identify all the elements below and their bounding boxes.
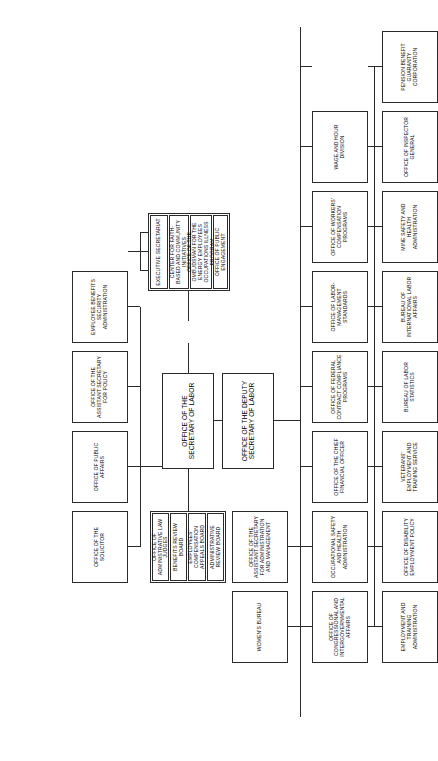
node-veterans-employment-and-training-service[interactable]: VETERANS' EMPLOYMENT AND TRAINING SERVIC… [382,431,438,503]
node-employment-and-training-administration[interactable]: EMPLOYMENT AND TRAINING ADMINISTRATION [382,591,438,663]
stub-mid-2 [300,306,312,307]
bracket-row-lower-right [374,67,375,147]
node-office-of-public-engagement-label: OFFICE OF PUBLIC ENGAGEMENT [215,218,226,286]
node-office-of-public-engagement[interactable]: OFFICE OF PUBLIC ENGAGEMENT [213,215,228,289]
node-womens-bureau[interactable]: WOMEN'S BUREAU [232,591,288,663]
node-executive-secretariat-label: EXECUTIVE SECRETARIAT [156,218,162,285]
spine-deputy-down [274,420,300,421]
node-vets-label: VETERANS' EMPLOYMENT AND TRAINING SERVIC… [401,434,418,500]
stub-upper-1 [128,466,140,467]
stub-low-2 [368,306,382,307]
node-oasam-label: OFFICE OF THE ASSISTANT SECRETARY FOR AD… [249,514,272,580]
node-center-for-faith-based-and-community-initiatives-label: CENTER FOR FAITH-BASED AND COMMUNITY INI… [170,218,187,286]
node-mine-safety-and-health-administration[interactable]: MINE SAFETY AND HEALTH ADMINISTRATION [382,191,438,263]
stub-upper-2 [128,386,140,387]
node-office-of-federal-contract-compliance-programs-label: OFFICE OF FEDERAL CONTRACT COMPLIANCE PR… [331,354,348,420]
node-employee-benefits-security-administration-label: EMPLOYEE BENEFITS SECURITY ADMINISTRATIO… [91,274,108,340]
stub-left-low-1 [368,546,382,547]
node-benefits-review-board-label: BENEFITS REVIEW BOARD [173,516,184,578]
node-office-of-disability-employment-policy[interactable]: OFFICE OF DISABILITY EMPLOYMENT POLICY [382,511,438,583]
node-administrative-review-board[interactable]: ADMINISTRATIVE REVIEW BOARD [207,513,224,581]
node-administrative-review-board-label: ADMINISTRATIVE REVIEW BOARD [210,516,221,578]
bracket-row-upper [140,307,141,547]
node-odep-label: OFFICE OF DISABILITY EMPLOYMENT POLICY [404,514,415,580]
node-deputy-secretary-of-labor-label: OFFICE OF THE DEPUTY SECRETARY OF LABOR [241,376,256,466]
stub-left-0 [300,626,312,627]
bracket-staff [140,233,141,271]
node-pension-benefit-guaranty-corporation[interactable]: PENSION BENEFIT GUARANTY CORPORATION [382,31,438,103]
stub-upper-3 [128,306,140,307]
node-employees-compensation-appeals-board[interactable]: EMPLOYEES' COMPENSATION APPEALS BOARD [188,513,206,581]
node-womens-bureau-label: WOMEN'S BUREAU [257,603,263,652]
stub-low-3 [368,226,382,227]
node-deputy-secretary-of-labor[interactable]: OFFICE OF THE DEPUTY SECRETARY OF LABOR [222,373,274,469]
node-office-of-the-assistant-secretary-for-policy-label: OFFICE OF THE ASSISTANT SECRETARY FOR PO… [91,354,108,420]
node-office-of-the-assistant-secretary-for-administration-and-management[interactable]: OFFICE OF THE ASSISTANT SECRETARY FOR AD… [232,511,288,583]
node-office-of-labor-management-standards[interactable]: OFFICE OF LABOR-MANAGEMENT STANDARDS [312,271,368,343]
node-office-of-the-assistant-secretary-for-policy[interactable]: OFFICE OF THE ASSISTANT SECRETARY FOR PO… [72,351,128,423]
node-benefits-review-board[interactable]: BENEFITS REVIEW BOARD [170,513,187,581]
node-wage-and-hour-division[interactable]: WAGE AND HOUR DIVISION [312,111,368,183]
node-office-of-administrative-law-judges[interactable]: OFFICE OF ADMINISTRATIVE LAW JUDGES [152,513,169,581]
node-bls-label: BUREAU OF LABOR STATISTICS [404,354,415,420]
stub-mid-0 [300,466,312,467]
node-secretary-of-labor-label: OFFICE OF THE SECRETARY OF LABOR [181,376,196,466]
stub-left-1 [300,546,312,547]
bracket-row-lower-left [374,467,375,627]
node-oig-label: OFFICE OF INSPECTOR GENERAL [404,114,415,180]
node-office-of-workers-compensation-programs[interactable]: OFFICE OF WORKERS' COMPENSATION PROGRAMS [312,191,368,263]
bracket-staff-trunk [128,251,140,252]
stub-low-5 [368,66,382,67]
node-bureau-of-international-labor-affairs[interactable]: BUREAU OF INTERNATIONAL LABOR AFFAIRS [382,271,438,343]
node-office-of-inspector-general[interactable]: OFFICE OF INSPECTOR GENERAL [382,111,438,183]
node-occupational-safety-and-health-administration[interactable]: OCCUPATIONAL SAFETY AND HEALTH ADMINISTR… [312,511,368,583]
stub-low-4 [368,146,382,147]
bracket-row-lower [374,147,375,467]
connector-secretary-to-staff-stub [188,343,189,373]
node-employees-compensation-appeals-board-label: EMPLOYEES' COMPENSATION APPEALS BOARD [188,516,205,578]
node-osha-label: OCCUPATIONAL SAFETY AND HEALTH ADMINISTR… [331,514,348,580]
connector-boards-to-secretary [188,469,189,511]
stub-up-oasam [288,546,300,547]
node-office-of-workers-compensation-programs-label: OFFICE OF WORKERS' COMPENSATION PROGRAMS [331,194,348,260]
node-wage-and-hour-division-label: WAGE AND HOUR DIVISION [334,114,345,180]
node-office-of-administrative-law-judges-label: OFFICE OF ADMINISTRATIVE LAW JUDGES [152,516,169,578]
stub-mid-3 [300,226,312,227]
node-office-of-congressional-and-intergovernmental-affairs[interactable]: OFFICE OF CONGRESSIONAL AND INTERGOVERNM… [312,591,368,663]
node-ilab-label: BUREAU OF INTERNATIONAL LABOR AFFAIRS [401,274,418,340]
stub-up-womens-bureau [288,626,300,627]
stub-mid-1 [300,386,312,387]
node-employee-benefits-security-administration[interactable]: EMPLOYEE BENEFITS SECURITY ADMINISTRATIO… [72,271,128,343]
connector-secretary-to-deputy [214,420,222,421]
spine-horizontal-main [300,27,301,717]
node-office-of-the-ombudsman-label: OFFICE OF THE OMBUDSMAN FOR THE ENERGY E… [187,218,216,286]
node-msha-label: MINE SAFETY AND HEALTH ADMINISTRATION [401,194,418,260]
stub-upper-0 [128,546,140,547]
stub-low-0 [368,466,382,467]
stub-low-1 [368,386,382,387]
node-executive-secretariat[interactable]: EXECUTIVE SECRETARIAT [150,215,168,289]
node-congressional-affairs-label: OFFICE OF CONGRESSIONAL AND INTERGOVERNM… [329,594,352,660]
node-office-of-the-ombudsman[interactable]: OFFICE OF THE OMBUDSMAN FOR THE ENERGY E… [190,215,212,289]
stub-left-low-0 [368,626,382,627]
node-office-of-public-affairs-label: OFFICE OF PUBLIC AFFAIRS [94,434,105,500]
node-office-of-the-chief-financial-officer[interactable]: OFFICE OF THE CHIEF FINANCIAL OFFICER [312,431,368,503]
node-office-of-the-chief-financial-officer-label: OFFICE OF THE CHIEF FINANCIAL OFFICER [334,434,345,500]
node-eta-label: EMPLOYMENT AND TRAINING ADMINISTRATION [401,594,418,660]
bracket-upper-to-secretary [140,466,162,467]
node-office-of-federal-contract-compliance-programs[interactable]: OFFICE OF FEDERAL CONTRACT COMPLIANCE PR… [312,351,368,423]
node-pbgc-label: PENSION BENEFIT GUARANTY CORPORATION [401,34,418,100]
node-secretary-of-labor[interactable]: OFFICE OF THE SECRETARY OF LABOR [162,373,214,469]
stub-mid-4 [300,146,312,147]
node-office-of-the-solicitor-label: OFFICE OF THE SOLICITOR [94,514,105,580]
node-office-of-the-solicitor[interactable]: OFFICE OF THE SOLICITOR [72,511,128,583]
node-office-of-public-affairs[interactable]: OFFICE OF PUBLIC AFFAIRS [72,431,128,503]
stub-right-trunk [300,66,312,67]
node-office-of-labor-management-standards-label: OFFICE OF LABOR-MANAGEMENT STANDARDS [331,274,348,340]
node-bureau-of-labor-statistics[interactable]: BUREAU OF LABOR STATISTICS [382,351,438,423]
connector-staff-to-secretary [188,291,189,321]
